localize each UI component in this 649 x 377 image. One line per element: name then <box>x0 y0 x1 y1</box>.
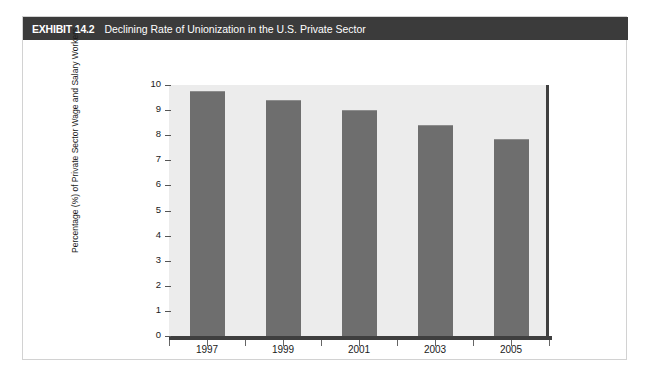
x-axis-tick-label: 2003 <box>405 344 465 355</box>
exhibit-title-text: Declining Rate of Unionization in the U.… <box>104 23 365 35</box>
y-axis-tick: 8 <box>23 135 171 136</box>
y-axis-tick-label: 3 <box>121 254 161 265</box>
y-axis-tick-mark <box>165 135 171 136</box>
y-axis-tick-label: 0 <box>121 329 161 340</box>
y-axis-tick-label: 8 <box>121 128 161 139</box>
y-axis-tick-mark <box>165 211 171 212</box>
y-axis-tick-mark <box>165 85 171 86</box>
y-axis-tick-mark <box>165 236 171 237</box>
y-axis-tick: 2 <box>23 286 171 287</box>
bar <box>342 110 377 336</box>
x-axis-line <box>169 336 552 340</box>
bar <box>418 125 453 336</box>
y-axis-tick-label: 2 <box>121 279 161 290</box>
y-axis-tick: 4 <box>23 236 171 237</box>
y-axis-tick-label: 4 <box>121 229 161 240</box>
y-axis-tick-mark <box>165 160 171 161</box>
x-axis-tick-label: 1997 <box>177 344 237 355</box>
bar <box>190 91 225 336</box>
y-axis-tick-label: 7 <box>121 153 161 164</box>
y-axis-tick-label: 10 <box>121 78 161 89</box>
y-axis-tick: 10 <box>23 85 171 86</box>
y-axis-tick-mark <box>165 311 171 312</box>
bar <box>266 100 301 336</box>
y-axis-tick-mark <box>165 110 171 111</box>
y-axis-tick: 6 <box>23 185 171 186</box>
x-axis-tick-label: 2001 <box>329 344 389 355</box>
y-axis-tick-label: 1 <box>121 304 161 315</box>
y-axis-tick: 7 <box>23 160 171 161</box>
bar <box>494 139 529 336</box>
x-axis-tick-mark <box>245 340 246 346</box>
y-axis-tick-mark <box>165 185 171 186</box>
exhibit-card: EXHIBIT 14.2 Declining Rate of Unionizat… <box>22 16 627 360</box>
x-axis-tick-mark <box>397 340 398 346</box>
x-axis-tick-mark <box>549 340 550 346</box>
x-axis-tick-mark <box>321 340 322 346</box>
y-axis-tick-label: 5 <box>121 204 161 215</box>
y-axis-tick-mark <box>165 336 171 337</box>
y-axis-tick-label: 6 <box>121 178 161 189</box>
y-axis-title: Percentage (%) of Private Sector Wage an… <box>70 73 80 253</box>
x-axis-tick-label: 2005 <box>481 344 541 355</box>
y-axis-tick: 9 <box>23 110 171 111</box>
x-axis-tick-mark <box>473 340 474 346</box>
y-axis-tick-label: 9 <box>121 103 161 114</box>
y-axis-tick-mark <box>165 286 171 287</box>
exhibit-title-bar: EXHIBIT 14.2 Declining Rate of Unionizat… <box>23 17 628 40</box>
x-axis-tick-label: 1999 <box>253 344 313 355</box>
y-axis-tick: 3 <box>23 261 171 262</box>
y-axis-tick: 5 <box>23 211 171 212</box>
y-axis-tick: 1 <box>23 311 171 312</box>
y-axis-tick-mark <box>165 261 171 262</box>
exhibit-number-label: EXHIBIT 14.2 <box>32 23 94 35</box>
x-axis-tick-mark <box>169 340 170 346</box>
y-axis-tick: 0 <box>23 336 171 337</box>
bar-chart: Percentage (%) of Private Sector Wage an… <box>23 40 628 360</box>
